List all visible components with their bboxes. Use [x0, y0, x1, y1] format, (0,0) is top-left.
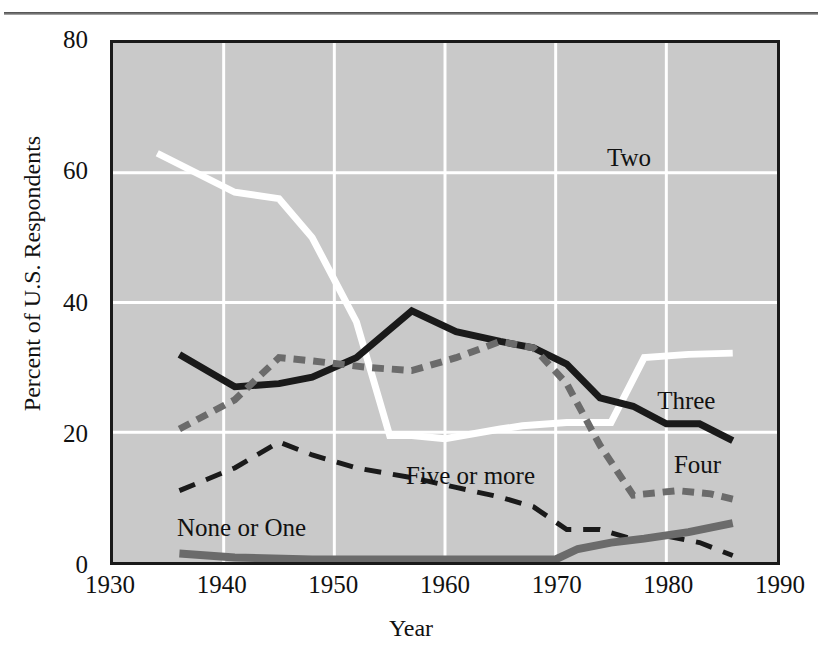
x-tick-label: 1960	[385, 572, 505, 598]
x-tick-label: 1980	[608, 572, 728, 598]
y-tick-label: 80	[0, 27, 88, 52]
x-tick-label: 1950	[273, 572, 393, 598]
series-label-four: Four	[674, 452, 721, 477]
clipped-header-text	[0, 0, 822, 8]
series-label-three: Three	[657, 388, 715, 413]
y-axis-label: Percent of U.S. Respondents	[19, 74, 46, 474]
x-tick-label: 1970	[497, 572, 617, 598]
series-label-five-or-more: Five or more	[406, 463, 535, 488]
figure-root: 806040200 1930194019501960197019801990 T…	[0, 0, 822, 651]
series-label-none-or-one: None or One	[177, 515, 306, 540]
x-tick-label: 1930	[50, 572, 170, 598]
x-tick-label: 1940	[162, 572, 282, 598]
header-rule	[4, 12, 818, 15]
x-axis-label: Year	[0, 615, 822, 642]
series-label-two: Two	[607, 145, 651, 170]
x-tick-label: 1990	[720, 572, 822, 598]
